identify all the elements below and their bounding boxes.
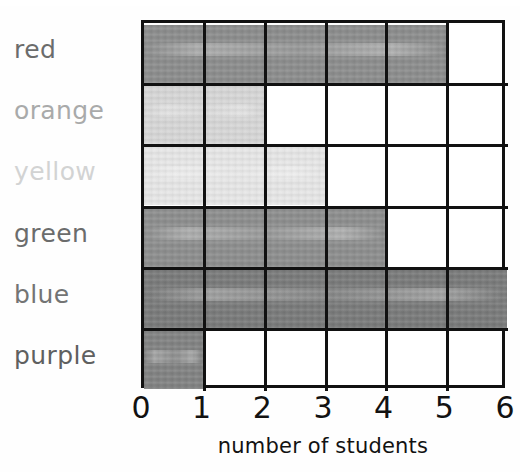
grid-line-horizontal [144, 83, 508, 86]
category-label-green: green [6, 221, 141, 246]
grid-line-horizontal [144, 328, 508, 331]
bar-yellow [144, 147, 325, 205]
category-label-yellow: yellow [6, 159, 141, 184]
x-axis-ticks: 0123456 [0, 392, 520, 436]
category-label-orange: orange [6, 98, 141, 123]
grid-line-horizontal [144, 144, 508, 147]
bar-sheen [144, 43, 446, 56]
grid-line-horizontal [144, 206, 508, 209]
bar-sheen [144, 166, 325, 179]
x-tick-3: 3 [303, 392, 343, 424]
plot-area [141, 20, 505, 388]
bar-red [144, 25, 446, 83]
grid-line-horizontal [144, 267, 508, 270]
x-tick-6: 6 [485, 392, 520, 424]
bar-sheen [144, 350, 203, 363]
category-label-red: red [6, 37, 141, 62]
x-tick-1: 1 [182, 392, 222, 424]
category-label-column: redorangeyellowgreenbluepurple [0, 0, 141, 388]
x-axis-title: number of students [141, 434, 505, 458]
x-tick-0: 0 [121, 392, 161, 424]
x-tick-4: 4 [364, 392, 404, 424]
category-label-blue: blue [6, 282, 141, 307]
chart-canvas: redorangeyellowgreenbluepurple 0123456 n… [0, 0, 520, 472]
category-label-purple: purple [6, 343, 141, 368]
x-tick-5: 5 [424, 392, 464, 424]
bar-purple [144, 331, 203, 389]
x-tick-2: 2 [242, 392, 282, 424]
